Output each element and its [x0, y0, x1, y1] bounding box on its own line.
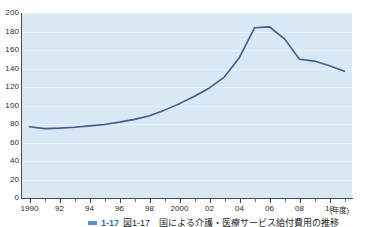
x-tick-label: 04 [235, 204, 244, 213]
y-tick-label: 100 [0, 101, 19, 110]
x-tick-mark [195, 199, 196, 202]
x-tick-mark [165, 199, 166, 202]
y-tick-label: 40 [0, 156, 19, 165]
x-tick-mark [150, 199, 151, 203]
chart-figure: 200180160140120100806040200 199092949698… [0, 0, 376, 227]
x-tick-mark [270, 199, 271, 203]
x-tick-mark [30, 199, 31, 203]
x-tick-mark [345, 199, 346, 202]
y-tick-label: 0 [0, 193, 19, 202]
y-tick-label: 140 [0, 64, 19, 73]
caption-number: 1-17 [101, 218, 119, 227]
x-tick-mark [120, 199, 121, 203]
x-tick-mark [90, 199, 91, 203]
plot-area [22, 13, 352, 198]
figure-caption-strip: 1-17 図1-17 国による介護・医療サービス給付費用の推移 [0, 218, 376, 227]
x-tick-label: 1990 [20, 204, 38, 213]
x-tick-label: 94 [85, 204, 94, 213]
x-axis-line [21, 198, 353, 199]
y-tick-label: 80 [0, 119, 19, 128]
x-tick-mark [180, 199, 181, 203]
x-tick-mark [210, 199, 211, 203]
x-tick-label: 02 [205, 204, 214, 213]
y-axis-line [21, 13, 22, 199]
y-tick-label: 60 [0, 138, 19, 147]
x-tick-mark [60, 199, 61, 203]
x-tick-mark [300, 199, 301, 203]
caption-text: 図1-17 国による介護・医療サービス給付費用の推移 [123, 218, 339, 227]
y-tick-label: 200 [0, 8, 19, 17]
x-tick-mark [315, 199, 316, 202]
caption-swatch-icon [88, 221, 97, 225]
figure-caption: 1-17 図1-17 国による介護・医療サービス給付費用の推移 [88, 218, 339, 227]
x-tick-label: 08 [295, 204, 304, 213]
x-tick-mark [240, 199, 241, 203]
line-series-path [30, 27, 345, 129]
x-tick-mark [105, 199, 106, 202]
y-tick-label: 120 [0, 82, 19, 91]
line-series-svg [22, 13, 352, 198]
y-tick-label: 160 [0, 45, 19, 54]
x-tick-label: 92 [55, 204, 64, 213]
x-tick-label: 96 [115, 204, 124, 213]
x-tick-mark [135, 199, 136, 202]
x-tick-mark [75, 199, 76, 202]
x-tick-mark [285, 199, 286, 202]
y-tick-label: 20 [0, 175, 19, 184]
x-tick-label: 98 [145, 204, 154, 213]
x-tick-mark [255, 199, 256, 202]
x-tick-label: 06 [265, 204, 274, 213]
x-tick-mark [45, 199, 46, 202]
x-axis-unit-label: (年度) [330, 204, 349, 215]
y-tick-label: 180 [0, 27, 19, 36]
x-tick-mark [330, 199, 331, 203]
x-tick-mark [225, 199, 226, 202]
x-tick-label: 2000 [170, 204, 188, 213]
